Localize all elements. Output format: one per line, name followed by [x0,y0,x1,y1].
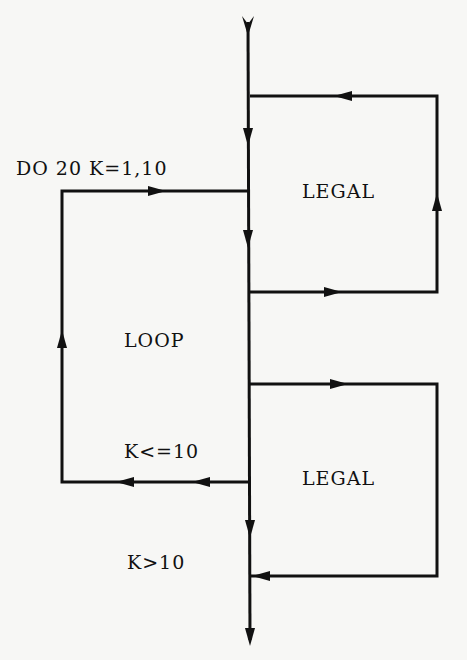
down-arrow-icon [245,520,255,538]
flow-diagram [0,0,467,660]
condition-exit-label: K>10 [127,551,185,573]
entry-arrow-icon [242,16,254,36]
down-arrow-icon [243,128,253,146]
left-arrow-icon [334,91,352,101]
left-arrow-icon [116,477,134,487]
do-statement-label: DO 20 K=1,10 [16,157,168,179]
up-arrow-icon [432,193,442,211]
legal-top-label: LEGAL [302,180,375,202]
left-arrow-icon [252,571,270,581]
right-arrow-icon [148,186,166,196]
flow-lines [62,22,437,640]
main-flow-line [248,22,250,640]
down-arrow-icon [243,230,253,248]
right-arrow-icon [324,287,342,297]
loop-label: LOOP [124,329,185,351]
legal-bottom-label: LEGAL [302,467,375,489]
condition-continue-label: K<=10 [124,440,199,462]
exit-arrow-icon [245,628,255,646]
right-arrow-icon [330,379,348,389]
left-arrow-icon [192,477,210,487]
up-arrow-icon [57,330,67,348]
